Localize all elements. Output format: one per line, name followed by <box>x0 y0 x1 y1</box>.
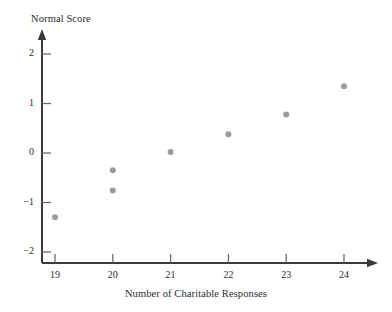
x-tick-label: 22 <box>215 269 241 280</box>
tick-marks-group <box>42 54 344 263</box>
data-point <box>110 188 116 194</box>
data-points-group <box>52 83 347 220</box>
y-tick-label: −2 <box>12 245 34 256</box>
x-tick-label: 21 <box>158 269 184 280</box>
data-point <box>110 167 116 173</box>
x-tick-label: 20 <box>100 269 126 280</box>
x-tick-label: 24 <box>331 269 357 280</box>
y-axis-arrow-icon <box>38 29 46 40</box>
x-tick-label: 23 <box>273 269 299 280</box>
y-axis-title: Normal Score <box>31 13 91 24</box>
y-tick-label: 1 <box>12 97 34 108</box>
y-tick-label: −1 <box>12 196 34 207</box>
plot-canvas <box>0 0 392 312</box>
x-axis-arrow-icon <box>367 259 378 267</box>
x-axis-title: Number of Charitable Responses <box>0 288 392 299</box>
y-tick-label: 0 <box>12 146 34 157</box>
x-tick-label: 19 <box>42 269 68 280</box>
data-point <box>52 214 58 220</box>
data-point <box>341 83 347 89</box>
data-point <box>168 149 174 155</box>
scatter-plot-figure: Normal Score Number of Charitable Respon… <box>0 0 392 312</box>
data-point <box>283 111 289 117</box>
data-point <box>225 131 231 137</box>
y-tick-label: 2 <box>12 47 34 58</box>
axes-group <box>38 29 378 267</box>
